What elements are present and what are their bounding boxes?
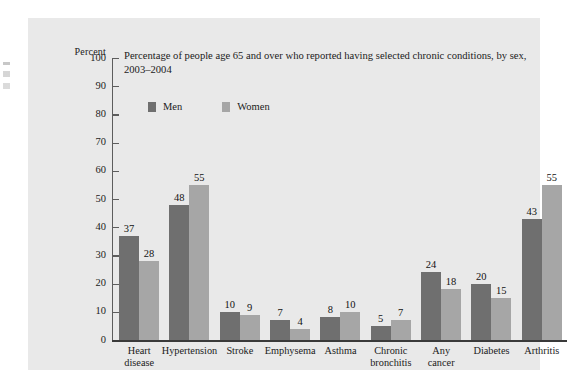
y-tick-label: 10 [66,305,106,317]
chart-panel: Percent Percentage of people age 65 and … [28,18,540,370]
bar-value-label: 9 [247,302,252,313]
bar-value-label: 37 [124,223,135,234]
bar-value-label: 55 [194,172,205,183]
bar-men[interactable]: 48 [169,205,189,340]
bar-women[interactable]: 10 [340,312,360,340]
bar-value-label: 7 [277,307,282,318]
bar-rect [169,205,189,340]
bar-value-label: 20 [476,271,487,282]
bar-rect [421,272,441,340]
bar-women[interactable]: 55 [542,185,562,340]
scan-artifact [3,62,10,100]
bar-group: 4855 [169,185,209,340]
bar-women[interactable]: 18 [441,289,461,340]
bar-value-label: 24 [426,259,437,270]
bar-group: 4355 [522,185,562,340]
bar-rect [471,284,491,340]
y-tick-label: 80 [66,108,106,120]
x-tick-label-line: disease [106,357,172,369]
plot-area: 372848551097481057241820154355 [114,58,567,340]
bar-rect [270,320,290,340]
bar-men[interactable]: 10 [220,312,240,340]
bar-men[interactable]: 37 [119,236,139,340]
x-axis-baseline [112,340,567,342]
bar-men[interactable]: 24 [421,272,441,340]
bar-value-label: 5 [378,313,383,324]
bar-rect [240,315,260,340]
bar-group: 3728 [119,236,159,340]
y-tick-label: 40 [66,221,106,233]
y-tick-label: 20 [66,277,106,289]
x-axis-labels: HeartdiseaseHypertensionStrokeEmphysemaA… [114,345,567,383]
bar-rect [371,326,391,340]
bar-women[interactable]: 28 [139,261,159,340]
bar-rect [441,289,461,340]
bar-men[interactable]: 43 [522,219,542,340]
x-tick-label: Arthritis [509,345,571,357]
bar-group: 2015 [471,284,511,340]
y-tick-label: 60 [66,164,106,176]
bar-rect [391,320,411,340]
bar-value-label: 15 [496,285,507,296]
y-tick-label: 100 [66,52,106,64]
y-tick-label: 90 [66,80,106,92]
y-tick-label: 70 [66,136,106,148]
bar-men[interactable]: 5 [371,326,391,340]
bar-group: 57 [371,320,411,340]
bar-value-label: 4 [297,316,302,327]
bar-women[interactable]: 55 [189,185,209,340]
bar-group: 74 [270,320,310,340]
bar-rect [139,261,159,340]
bar-women[interactable]: 7 [391,320,411,340]
bar-rect [320,317,340,340]
bar-women[interactable]: 4 [290,329,310,340]
x-tick-label-line: Arthritis [509,345,571,357]
bar-value-label: 55 [546,172,557,183]
bar-men[interactable]: 8 [320,317,340,340]
bar-value-label: 10 [224,299,235,310]
bar-women[interactable]: 15 [491,298,511,340]
bar-value-label: 10 [345,299,356,310]
y-tick-label: 0 [66,334,106,346]
bar-value-label: 7 [398,307,403,318]
bar-rect [290,329,310,340]
bar-value-label: 18 [446,276,457,287]
y-tick-label: 50 [66,193,106,205]
bar-rect [542,185,562,340]
bar-women[interactable]: 9 [240,315,260,340]
bar-rect [491,298,511,340]
bar-group: 109 [220,312,260,340]
bar-men[interactable]: 7 [270,320,290,340]
bar-men[interactable]: 20 [471,284,491,340]
bar-group: 2418 [421,272,461,340]
bar-group: 810 [320,312,360,340]
bar-rect [220,312,240,340]
bar-value-label: 28 [144,248,155,259]
bar-value-label: 48 [174,192,185,203]
x-tick-label-line: cancer [408,357,474,369]
bar-rect [340,312,360,340]
y-tick-label: 30 [66,249,106,261]
bar-rect [119,236,139,340]
bar-rect [189,185,209,340]
bar-value-label: 8 [328,304,333,315]
bar-value-label: 43 [526,206,537,217]
bar-rect [522,219,542,340]
